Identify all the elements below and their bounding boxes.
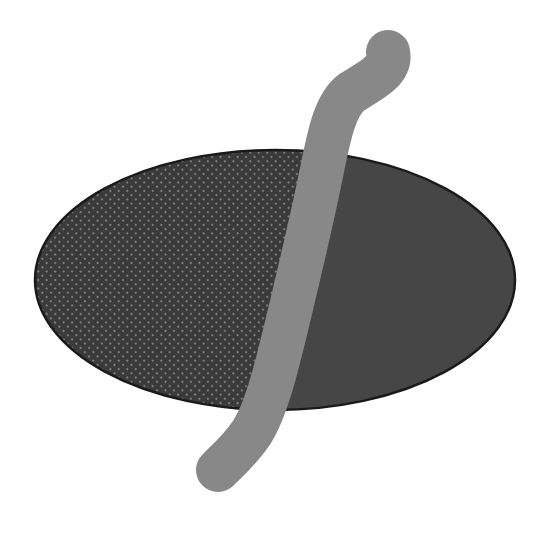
drawing-canvas [0, 0, 550, 538]
